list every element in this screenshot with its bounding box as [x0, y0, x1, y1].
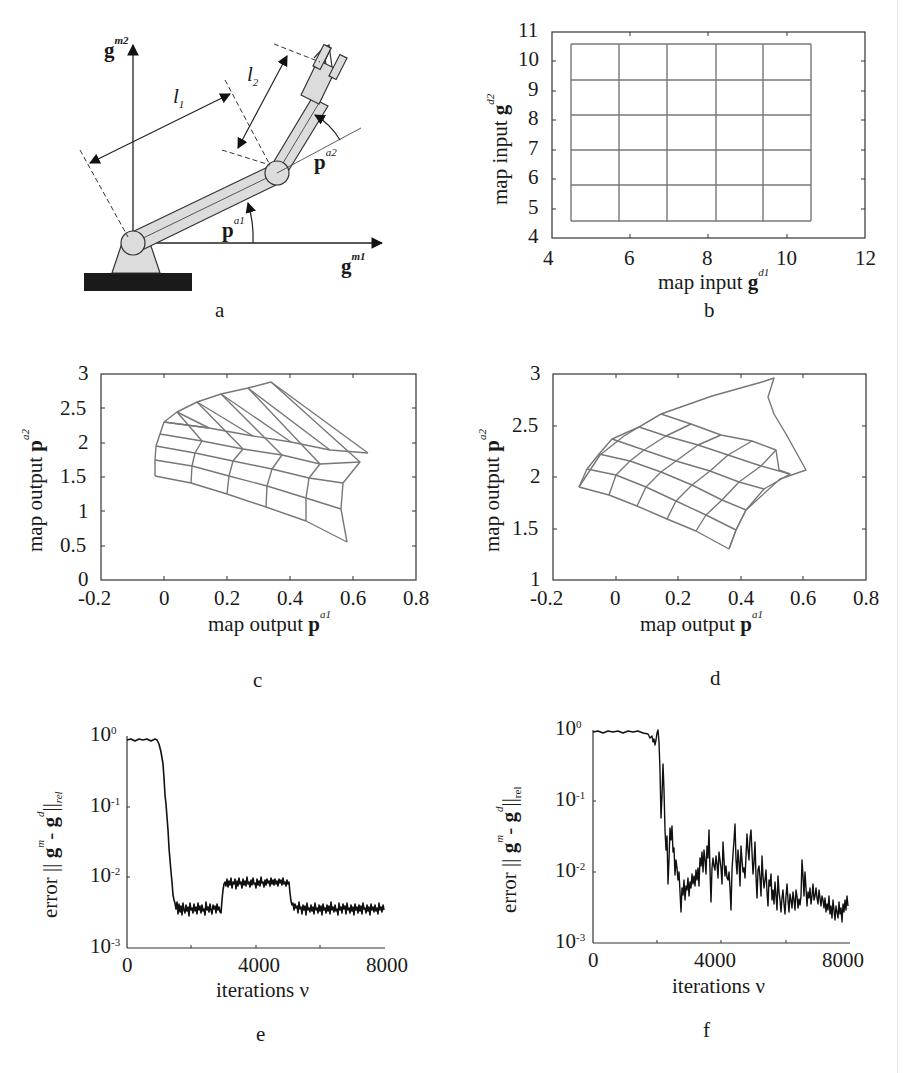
x-tick: 0.8: [403, 588, 429, 609]
x-tick: 0.2: [665, 588, 691, 609]
y-tick: 4: [528, 226, 539, 247]
x-tick: 6: [624, 248, 635, 269]
output-grid-mesh-d: [579, 378, 806, 549]
y-tick: 7: [528, 138, 539, 159]
y-tick: 8: [528, 108, 539, 129]
output-grid-mesh-c: [155, 382, 368, 542]
x-tick: 0.4: [277, 588, 303, 609]
y-tick: 2: [78, 432, 89, 453]
x-tick: 0: [122, 955, 133, 976]
plot-c-svg: [0, 340, 450, 700]
y-tick: 9: [528, 79, 539, 100]
x-tick: -0.2: [530, 588, 563, 609]
panel-e-error-plot: 100 10-1 10-2 10-3 0 4000 8000 iteration…: [0, 700, 450, 1073]
y-tick: 10-3: [90, 936, 120, 957]
y-tick: 1: [530, 569, 541, 590]
caption-e: e: [256, 1022, 265, 1047]
input-grid-mesh: [571, 44, 811, 221]
x-tick: 0.2: [214, 588, 240, 609]
x-tick: 0.6: [790, 588, 816, 609]
y-tick: 10: [518, 49, 539, 70]
y-axis-label: error || gm- gd||rel: [497, 787, 523, 913]
x-tick: 0.4: [728, 588, 754, 609]
y-tick: 2.5: [60, 398, 86, 419]
y-tick: 10-2: [555, 860, 585, 881]
x-tick: 8: [702, 248, 713, 269]
y-tick: 2: [530, 466, 541, 487]
y-tick: 100: [90, 724, 117, 745]
y-axis-label: error || gm- gd||rel: [38, 791, 64, 918]
y-axis-label: map output pa2: [480, 429, 505, 552]
x-tick: -0.2: [78, 588, 111, 609]
y-axis-label: map output pa2: [23, 429, 48, 552]
x-axis-label: map output pa1: [208, 612, 331, 637]
y-tick: 0: [78, 569, 89, 590]
x-axis-label: iterations ν: [672, 974, 765, 999]
x-tick: 0: [610, 588, 621, 609]
y-tick: 1.5: [512, 518, 538, 539]
panel-f-error-plot: 100 10-1 10-2 10-3 0 4000 8000 iteration…: [450, 700, 908, 1073]
y-tick: 100: [555, 718, 582, 739]
x-axis-label: map input gd1: [658, 270, 769, 295]
x-tick: 0.8: [853, 588, 879, 609]
x-tick: 8000: [822, 950, 864, 971]
y-tick: 10-2: [90, 865, 120, 886]
y-tick: 11: [518, 20, 538, 41]
y-tick: 10-1: [555, 789, 585, 810]
caption-c: c: [253, 668, 262, 693]
y-tick: 3: [78, 363, 89, 384]
x-tick: 12: [855, 248, 876, 269]
x-tick: 4000: [694, 950, 736, 971]
x-tick: 8000: [366, 955, 408, 976]
panel-d-output-grid-plot: -0.2 0 0.2 0.4 0.6 0.8 1 1.5 2 2.5 3 map…: [450, 340, 908, 700]
panel-b-input-grid-plot: 4 6 8 10 12 4 5 6 7 8 9 10 11 map input …: [0, 0, 908, 340]
y-tick: 3: [530, 363, 541, 384]
x-tick: 0.6: [340, 588, 366, 609]
plot-e-svg: [0, 700, 450, 1073]
x-axis-label: iterations ν: [216, 978, 309, 1003]
y-tick: 2.5: [512, 415, 538, 436]
error-curve-e: [127, 739, 384, 916]
x-tick: 4: [543, 248, 554, 269]
error-curve-f: [593, 730, 848, 922]
y-tick: 5: [528, 197, 539, 218]
x-tick: 0: [588, 950, 599, 971]
plot-b-svg: [0, 0, 908, 340]
y-tick: 10-3: [555, 931, 585, 952]
x-axis-label: map output pa1: [640, 612, 763, 637]
x-tick: 0: [159, 588, 170, 609]
caption-f: f: [703, 1018, 710, 1043]
caption-d: d: [710, 666, 721, 691]
y-axis-label: map input gd2: [488, 94, 513, 205]
y-tick: 1.5: [60, 466, 86, 487]
x-tick: 10: [776, 248, 797, 269]
x-tick: 4000: [238, 955, 280, 976]
y-tick: 0.5: [60, 535, 86, 556]
panel-c-output-grid-plot: -0.2 0 0.2 0.4 0.6 0.8 0 0.5 1 1.5 2 2.5…: [0, 340, 450, 700]
y-tick: 1: [78, 501, 89, 522]
caption-b: b: [704, 298, 715, 323]
y-tick: 10-1: [90, 795, 120, 816]
y-tick: 6: [528, 167, 539, 188]
